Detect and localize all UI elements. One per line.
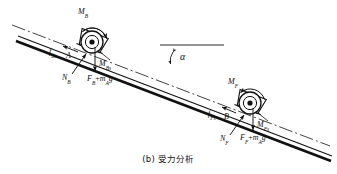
sub-normal-top: B	[67, 79, 70, 85]
sub-friction-bottom: Fs	[210, 115, 215, 121]
label-moment-support-top: MBs	[99, 60, 111, 68]
sub-mass-top: A	[105, 80, 108, 86]
label-moment-support-bottom: MFs	[257, 121, 269, 129]
load-bottom-plus: +	[248, 133, 253, 142]
label-friction-bottom: fFs	[208, 110, 216, 118]
label-angle-alpha: α	[180, 52, 185, 62]
load-bottom-g: g	[262, 133, 266, 142]
label-moment-bottom-roller: MF	[228, 78, 238, 86]
top-roller-hub	[89, 39, 94, 44]
load-top-g: g	[109, 74, 113, 83]
sub-load-top: B	[92, 80, 95, 86]
label-point-a: A	[66, 52, 71, 60]
sub-moment-support-top: Bs	[106, 65, 111, 71]
label-friction-top: fBs	[49, 48, 57, 56]
sub-normal-bottom: F	[225, 140, 228, 146]
bottom-roller-hub	[247, 100, 252, 105]
label-load-bottom: FF+mAg	[240, 134, 266, 142]
label-normal-top: NB	[62, 74, 71, 82]
sub-moment-bottom: F	[235, 83, 238, 89]
label-moment-top-roller: MB	[78, 8, 88, 16]
rail-centerline-dashdot	[12, 25, 330, 146]
sub-mass-bottom: A	[258, 139, 261, 145]
angle-alpha-arc	[170, 52, 173, 64]
sub-moment-top: B	[85, 13, 88, 19]
sub-load-bottom: F	[245, 139, 248, 145]
figure-caption: (b) 受力分析	[0, 152, 337, 164]
rail-lower-edge	[16, 41, 331, 161]
force-analysis-figure: MB fBs A NB MBs FB+mAg α MF fFs B NF MFs…	[0, 0, 337, 174]
label-point-b: B	[224, 113, 229, 121]
free-body-diagram-canvas	[0, 0, 337, 174]
sub-moment-support-bottom: Fs	[264, 126, 269, 132]
sub-friction-top: Bs	[51, 53, 56, 59]
label-normal-bottom: NF	[220, 135, 229, 143]
label-load-top: FB+mAg	[87, 75, 113, 83]
load-top-plus: +	[95, 74, 100, 83]
